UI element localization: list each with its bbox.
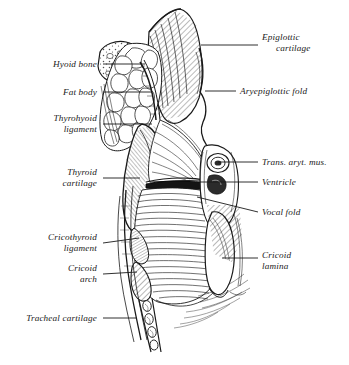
label-cricothyroid-ligament: Cricothyroidligament bbox=[48, 232, 97, 253]
larynx-sagittal-section-illustration bbox=[0, 0, 349, 365]
label-cricoid-arch: Cricoidarch bbox=[68, 263, 97, 284]
label-trans-aryt-mus: Trans. aryt. mus. bbox=[262, 157, 327, 168]
label-thyrohyoid-ligament: Thyrohyoidligament bbox=[53, 113, 97, 134]
label-fat-body: Fat body bbox=[63, 87, 97, 98]
label-line-1: Aryepiglottic fold bbox=[240, 86, 307, 96]
label-line-2: ligament bbox=[53, 124, 97, 135]
label-line-1: Vocal fold bbox=[262, 207, 301, 217]
label-line-2: cartilage bbox=[262, 43, 311, 54]
label-line-1: Thyrohyoid bbox=[53, 113, 97, 123]
label-epiglottic-cartilage: Epiglotticcartilage bbox=[262, 32, 311, 53]
label-aryepiglottic-fold: Aryepiglottic fold bbox=[240, 86, 307, 97]
label-line-2: lamina bbox=[262, 261, 291, 272]
label-ventricle: Ventricle bbox=[262, 177, 296, 188]
label-cricoid-lamina: Cricoidlamina bbox=[262, 250, 291, 271]
label-line-1: Trans. aryt. mus. bbox=[262, 157, 327, 167]
label-line-1: Ventricle bbox=[262, 177, 296, 187]
label-line-2: arch bbox=[68, 274, 97, 285]
label-vocal-fold: Vocal fold bbox=[262, 207, 301, 218]
label-line-1: Epiglottic bbox=[262, 32, 300, 42]
label-line-1: Tracheal cartilage bbox=[26, 313, 97, 323]
tracheal-cartilage-shape bbox=[139, 298, 161, 352]
label-line-1: Hyoid bone bbox=[53, 59, 97, 69]
label-line-2: ligament bbox=[48, 243, 97, 254]
label-line-1: Cricoid bbox=[68, 263, 97, 273]
label-thyroid-cartilage: Thyroidcartilage bbox=[62, 167, 97, 188]
label-tracheal-cartilage: Tracheal cartilage bbox=[26, 313, 97, 324]
label-hyoid-bone: Hyoid bone bbox=[53, 59, 97, 70]
label-line-1: Cricothyroid bbox=[48, 232, 97, 242]
label-line-1: Fat body bbox=[63, 87, 97, 97]
label-line-2: cartilage bbox=[62, 178, 97, 189]
label-line-1: Thyroid bbox=[67, 167, 97, 177]
label-line-1: Cricoid bbox=[262, 250, 291, 260]
anatomy-figure-page: Hyoid boneFat bodyThyrohyoidligamentThyr… bbox=[0, 0, 349, 365]
